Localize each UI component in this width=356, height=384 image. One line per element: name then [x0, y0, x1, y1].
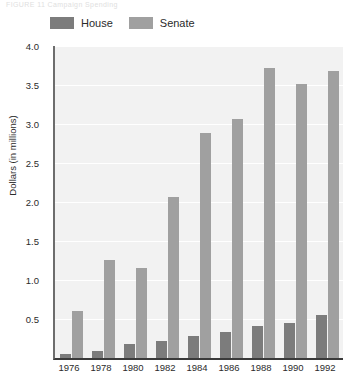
y-axis-tick-label: 1.0	[26, 275, 39, 286]
y-axis-tick-label: 3.5	[26, 80, 39, 91]
x-axis-tick-label: 1980	[117, 362, 149, 373]
bar-senate-1978	[104, 260, 115, 358]
bar-house-1978	[92, 351, 103, 358]
x-axis-tick-label: 1988	[245, 362, 277, 373]
x-axis-ticks: 197619781980198219841986198819901992	[53, 362, 341, 373]
bar-senate-1986	[232, 119, 243, 358]
y-axis-ticks: 0.51.01.52.02.53.03.54.0	[14, 40, 48, 360]
bar-group	[124, 46, 147, 358]
bar-groups	[55, 46, 343, 358]
bar-house-1976	[60, 354, 71, 358]
y-axis-tick-label: 2.5	[26, 158, 39, 169]
bar-group	[188, 46, 211, 358]
bar-senate-1988	[264, 68, 275, 358]
bar-senate-1982	[168, 197, 179, 358]
x-axis-tick-label: 1984	[181, 362, 213, 373]
x-axis-tick-label: 1978	[85, 362, 117, 373]
bar-group	[156, 46, 179, 358]
x-axis-tick-label: 1982	[149, 362, 181, 373]
bar-group	[316, 46, 339, 358]
bar-house-1990	[284, 323, 295, 358]
bar-senate-1992	[328, 71, 339, 358]
bar-group	[252, 46, 275, 358]
bar-senate-1990	[296, 84, 307, 358]
bar-senate-1980	[136, 268, 147, 358]
bar-house-1992	[316, 315, 327, 358]
plot-area	[53, 46, 343, 360]
bar-house-1984	[188, 336, 199, 358]
x-axis-tick-label: 1992	[309, 362, 341, 373]
x-axis-tick-label: 1976	[53, 362, 85, 373]
bar-group	[220, 46, 243, 358]
y-axis-tick-label: 2.0	[26, 197, 39, 208]
y-axis-tick-label: 0.5	[26, 314, 39, 325]
x-axis-tick-label: 1986	[213, 362, 245, 373]
bar-house-1980	[124, 344, 135, 358]
bar-group	[284, 46, 307, 358]
bar-group	[60, 46, 83, 358]
bar-group	[92, 46, 115, 358]
y-axis-tick-label: 4.0	[26, 41, 39, 52]
bar-house-1986	[220, 332, 231, 358]
bar-senate-1976	[72, 311, 83, 358]
x-axis-tick-label: 1990	[277, 362, 309, 373]
bar-senate-1984	[200, 133, 211, 358]
y-axis-tick-label: 3.0	[26, 119, 39, 130]
bar-house-1988	[252, 326, 263, 358]
y-axis-tick-label: 1.5	[26, 236, 39, 247]
bar-chart: Dollars (in millions) 0.51.01.52.02.53.0…	[0, 0, 356, 384]
bar-house-1982	[156, 341, 167, 358]
